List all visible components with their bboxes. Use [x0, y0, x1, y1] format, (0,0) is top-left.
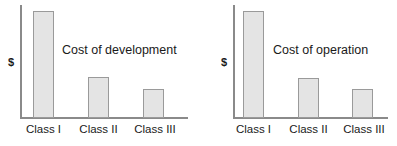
bar-class-iii	[143, 89, 164, 118]
bar-class-iii	[352, 89, 373, 118]
x-tick-label-class-iii: Class III	[123, 123, 187, 136]
x-tick-label-class-iii: Class III	[332, 123, 396, 136]
chart-title: Cost of development	[62, 43, 177, 57]
chart-title: Cost of operation	[273, 43, 368, 57]
y-axis-line	[20, 5, 22, 119]
x-tick-label-class-i: Class I	[223, 123, 284, 136]
bar-class-ii	[88, 77, 109, 118]
x-tick-label-class-ii: Class II	[278, 123, 339, 136]
y-axis-line	[233, 5, 235, 119]
x-tick-label-class-ii: Class II	[68, 123, 129, 136]
y-axis-label: $	[8, 56, 14, 68]
two-bar-charts-figure: $ Cost of development Class I Class II C…	[0, 0, 397, 146]
chart-cost-of-operation: $ Cost of operation Class I Class II Cla…	[198, 0, 397, 146]
bar-class-ii	[298, 78, 319, 118]
bar-class-i	[243, 11, 264, 118]
chart-cost-of-development: $ Cost of development Class I Class II C…	[0, 0, 198, 146]
y-axis-label: $	[221, 56, 227, 68]
bar-class-i	[33, 11, 54, 118]
x-tick-label-class-i: Class I	[13, 123, 74, 136]
